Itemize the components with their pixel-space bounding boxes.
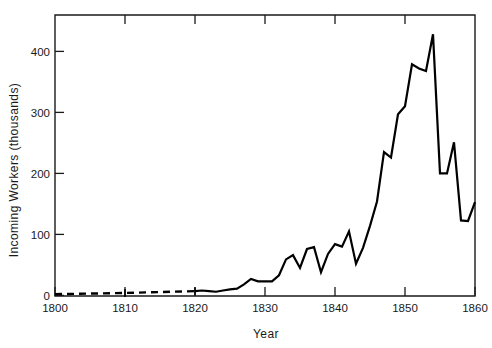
x-tick-label-1800: 1800 xyxy=(42,302,68,314)
top-axis-ticks xyxy=(125,15,405,24)
x-tick-label-1830: 1830 xyxy=(252,302,278,314)
y-tick-label-300: 300 xyxy=(31,107,50,119)
y-axis-title: Incoming Workers (thousands) xyxy=(7,83,21,257)
x-tick-label-1860: 1860 xyxy=(462,302,488,314)
y-tick-label-200: 200 xyxy=(31,168,50,180)
line-chart: 0 100 200 300 400 1800 1810 xyxy=(0,0,492,348)
x-tick-label-1850: 1850 xyxy=(392,302,418,314)
x-tick-label-1810: 1810 xyxy=(112,302,138,314)
y-tick-label-100: 100 xyxy=(31,229,50,241)
x-axis-ticks xyxy=(55,287,475,296)
x-axis-title: Year xyxy=(253,327,279,341)
x-tick-label-1840: 1840 xyxy=(322,302,348,314)
y-tick-label-400: 400 xyxy=(31,46,50,58)
y-tick-label-0: 0 xyxy=(44,290,50,302)
plot-frame xyxy=(55,15,475,296)
chart-figure: 0 100 200 300 400 1800 1810 xyxy=(0,0,492,348)
series-solid-recorded xyxy=(195,34,475,291)
y-axis-ticks xyxy=(55,51,64,295)
x-tick-labels: 1800 1810 1820 1830 1840 1850 1860 xyxy=(42,302,488,314)
data-series-group xyxy=(55,34,475,297)
x-tick-label-1820: 1820 xyxy=(182,302,208,314)
y-tick-labels: 0 100 200 300 400 xyxy=(31,46,50,302)
